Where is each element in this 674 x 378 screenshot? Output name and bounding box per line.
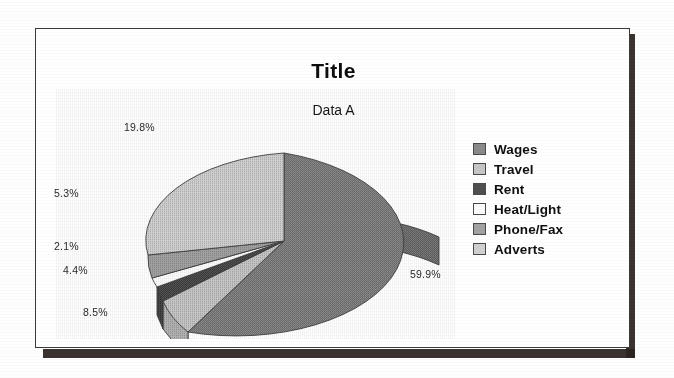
legend-label-wages: Wages xyxy=(494,142,538,157)
legend-swatch-phone-fax-icon xyxy=(473,223,486,235)
legend-swatch-wages-icon xyxy=(473,143,486,155)
legend-label-phone-fax: Phone/Fax xyxy=(494,222,563,237)
legend-item-travel[interactable]: Travel xyxy=(473,159,563,179)
legend-label-heat-light: Heat/Light xyxy=(494,202,561,217)
pie-label-heat-light: 2.1% xyxy=(54,240,79,252)
legend-item-adverts[interactable]: Adverts xyxy=(473,239,563,259)
pie-slice-adverts xyxy=(146,153,284,255)
legend-swatch-adverts-icon xyxy=(473,243,486,255)
legend-item-heat-light[interactable]: Heat/Light xyxy=(473,199,563,219)
chart-title: Title xyxy=(36,59,631,83)
pie-label-adverts: 19.8% xyxy=(124,121,155,133)
pie-chart xyxy=(56,89,456,339)
pie-chart-svg xyxy=(56,89,456,339)
pie-label-wages: 59.9% xyxy=(410,268,441,280)
legend-label-travel: Travel xyxy=(494,162,534,177)
pie-label-travel: 8.5% xyxy=(83,306,108,318)
scanned-page: Title Data A xyxy=(0,0,674,378)
chart-frame: Title Data A xyxy=(35,28,630,348)
page-shadow-bottom xyxy=(43,349,635,358)
legend-label-rent: Rent xyxy=(494,182,524,197)
pie-top-faces xyxy=(146,153,439,336)
legend-swatch-travel-icon xyxy=(473,163,486,175)
legend-swatch-rent-icon xyxy=(473,183,486,195)
legend-item-rent[interactable]: Rent xyxy=(473,179,563,199)
legend-swatch-heat-light-icon xyxy=(473,203,486,215)
pie-label-phone-fax: 5.3% xyxy=(54,187,79,199)
legend-label-adverts: Adverts xyxy=(494,242,545,257)
pie-label-rent: 4.4% xyxy=(63,264,88,276)
legend-item-phone-fax[interactable]: Phone/Fax xyxy=(473,219,563,239)
legend-item-wages[interactable]: Wages xyxy=(473,139,563,159)
chart-legend: Wages Travel Rent Heat/Light Phone/Fax A xyxy=(473,139,563,259)
